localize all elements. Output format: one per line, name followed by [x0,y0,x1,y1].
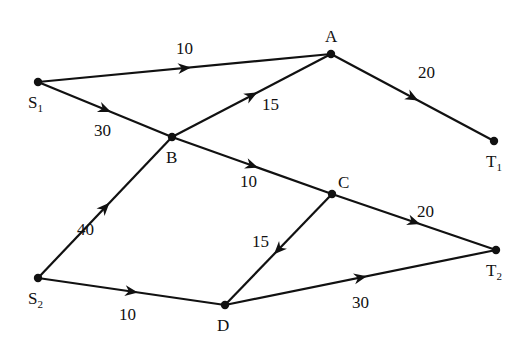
edge-weight-label: 10 [240,172,257,191]
node-b [168,133,176,141]
node-label-a: A [325,27,338,46]
edge-weight-label: 30 [94,121,111,140]
node-label-t2: T2 [486,261,502,282]
labels-layer: 10301520104020151030S1AT1BCS2DT2 [28,27,502,335]
node-s1 [34,78,42,86]
nodes-layer [34,50,500,309]
edge-weight-label: 40 [77,220,94,239]
edge-weight-label: 30 [352,293,369,312]
edge-weight-label: 20 [417,202,434,221]
node-label-s1: S1 [28,93,43,114]
node-d [221,301,229,309]
node-label-d: D [217,316,229,335]
node-a [327,50,335,58]
node-label-b: B [166,148,177,167]
edge-weight-label: 10 [119,305,136,324]
node-t2 [492,246,500,254]
node-label-s2: S2 [28,289,43,310]
node-label-t1: T1 [486,152,502,173]
node-s2 [34,274,42,282]
edges-layer [38,54,496,305]
edge-weight-label: 20 [418,63,435,82]
network-diagram: 10301520104020151030S1AT1BCS2DT2 [0,0,531,352]
node-t1 [490,137,498,145]
node-label-c: C [338,173,349,192]
edge-weight-label: 15 [252,232,269,251]
edge-weight-label: 15 [262,95,279,114]
edge-weight-label: 10 [176,39,193,58]
node-c [328,190,336,198]
